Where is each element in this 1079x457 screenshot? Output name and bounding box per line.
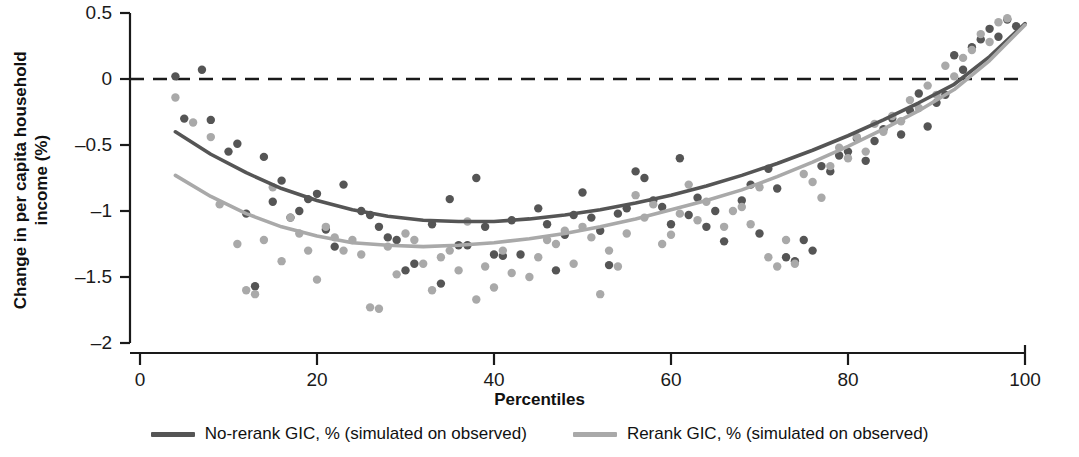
data-point xyxy=(437,279,445,287)
data-point xyxy=(782,236,790,244)
data-point xyxy=(534,204,542,212)
data-point xyxy=(596,290,604,298)
data-point xyxy=(499,246,507,254)
data-point xyxy=(959,54,967,62)
data-point xyxy=(260,153,268,161)
data-point xyxy=(410,236,418,244)
x-axis-tick-label: 0 xyxy=(110,369,170,391)
data-point xyxy=(950,72,958,80)
data-point xyxy=(322,223,330,231)
data-point xyxy=(897,130,905,138)
data-point xyxy=(251,290,259,298)
chart-legend: No-rerank GIC, % (simulated on observed)… xyxy=(0,424,1079,444)
data-point xyxy=(941,62,949,70)
data-point xyxy=(277,257,285,265)
legend-line-swatch xyxy=(151,432,195,437)
legend-item-1: Rerank GIC, % (simulated on observed) xyxy=(573,424,928,444)
data-point xyxy=(207,133,215,141)
data-point xyxy=(384,233,392,241)
data-point xyxy=(720,237,728,245)
y-axis-tick-label: –1 xyxy=(56,200,112,222)
data-point xyxy=(454,266,462,274)
data-point xyxy=(844,154,852,162)
x-axis-tick-label: 80 xyxy=(818,369,878,391)
data-point xyxy=(224,147,232,155)
data-point xyxy=(791,260,799,268)
data-point xyxy=(525,273,533,281)
data-point xyxy=(569,260,577,268)
data-point xyxy=(242,286,250,294)
data-point xyxy=(658,240,666,248)
data-point xyxy=(251,282,259,290)
data-point xyxy=(171,72,179,80)
data-point xyxy=(985,38,993,46)
data-point xyxy=(985,25,993,33)
data-point xyxy=(959,66,967,74)
x-axis-tick-label: 60 xyxy=(641,369,701,391)
data-point xyxy=(286,213,294,221)
data-point xyxy=(968,46,976,54)
data-point xyxy=(446,195,454,203)
data-point xyxy=(437,253,445,261)
data-point xyxy=(994,18,1002,26)
legend-label: Rerank GIC, % (simulated on observed) xyxy=(627,424,928,444)
data-point xyxy=(207,116,215,124)
legend-line-swatch xyxy=(573,432,617,437)
data-point xyxy=(711,207,719,215)
y-axis-tick-label: –1.5 xyxy=(56,266,112,288)
data-point xyxy=(977,30,985,38)
data-point xyxy=(481,223,489,231)
data-point xyxy=(578,188,586,196)
data-point xyxy=(446,246,454,254)
data-point xyxy=(392,236,400,244)
data-point xyxy=(923,122,931,130)
data-point xyxy=(534,253,542,261)
data-point xyxy=(410,260,418,268)
data-point xyxy=(180,114,188,122)
data-point xyxy=(508,269,516,277)
data-point xyxy=(994,33,1002,41)
x-axis-tick-label: 40 xyxy=(464,369,524,391)
data-point xyxy=(605,261,613,269)
data-point xyxy=(755,229,763,237)
data-point xyxy=(729,207,737,215)
data-point xyxy=(198,66,206,74)
data-point xyxy=(817,162,825,170)
data-point xyxy=(614,262,622,270)
data-point xyxy=(401,229,409,237)
data-point xyxy=(587,213,595,221)
data-point xyxy=(304,246,312,254)
data-point xyxy=(543,220,551,228)
data-point xyxy=(366,303,374,311)
data-point xyxy=(720,223,728,231)
data-point xyxy=(313,190,321,198)
legend-label: No-rerank GIC, % (simulated on observed) xyxy=(205,424,527,444)
data-point xyxy=(676,154,684,162)
data-point xyxy=(233,240,241,248)
data-point xyxy=(764,253,772,261)
data-point xyxy=(746,220,754,228)
data-point xyxy=(233,139,241,147)
y-axis-tick-label: –0.5 xyxy=(56,134,112,156)
data-point xyxy=(693,216,701,224)
data-point xyxy=(623,229,631,237)
data-point xyxy=(676,209,684,217)
data-point xyxy=(295,207,303,215)
data-point xyxy=(552,266,560,274)
data-point xyxy=(862,157,870,165)
data-point xyxy=(870,137,878,145)
data-point xyxy=(1003,14,1011,22)
data-point xyxy=(667,220,675,228)
data-point xyxy=(357,250,365,258)
data-point xyxy=(923,81,931,89)
data-point xyxy=(375,304,383,312)
data-point xyxy=(631,191,639,199)
data-point xyxy=(428,286,436,294)
data-point xyxy=(339,246,347,254)
data-point xyxy=(808,178,816,186)
data-point xyxy=(587,233,595,241)
y-axis-tick-label: 0 xyxy=(56,68,112,90)
data-point xyxy=(339,180,347,188)
data-point xyxy=(667,231,675,239)
data-point xyxy=(472,295,480,303)
